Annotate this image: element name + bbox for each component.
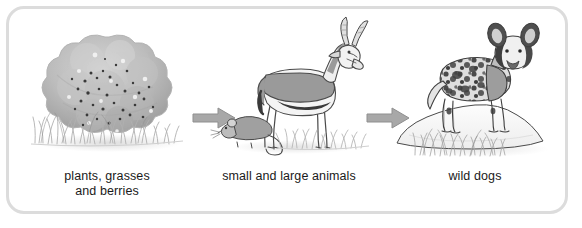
caption-line-1: small and large animals bbox=[199, 169, 379, 184]
caption-line-1: wild dogs bbox=[387, 169, 563, 184]
mound bbox=[397, 105, 543, 149]
eye bbox=[348, 51, 351, 54]
bush bbox=[42, 35, 172, 134]
horns bbox=[341, 17, 368, 46]
stage-caption-wild-dogs: wild dogs bbox=[387, 169, 563, 184]
berry-bush-illustration bbox=[17, 15, 197, 165]
stage-caption-animals: small and large animals bbox=[199, 169, 379, 184]
food-chain-stage-wild-dogs: wild dogs bbox=[387, 9, 563, 211]
food-chain-panel: plants, grasses and berries bbox=[6, 6, 568, 214]
wild-dog-illustration bbox=[387, 15, 563, 165]
caption-line-2: and berries bbox=[17, 184, 197, 199]
food-chain-stage-plants: plants, grasses and berries bbox=[17, 9, 197, 211]
eye-left bbox=[505, 49, 509, 53]
stage-caption-plants: plants, grasses and berries bbox=[17, 169, 197, 199]
food-chain-stage-animals: small and large animals bbox=[199, 9, 379, 211]
antelope-and-mouse-illustration bbox=[199, 15, 379, 165]
springbok bbox=[258, 17, 368, 149]
ground-shadow bbox=[232, 140, 356, 154]
caption-line-1: plants, grasses bbox=[17, 169, 197, 184]
eye-right bbox=[518, 49, 522, 53]
